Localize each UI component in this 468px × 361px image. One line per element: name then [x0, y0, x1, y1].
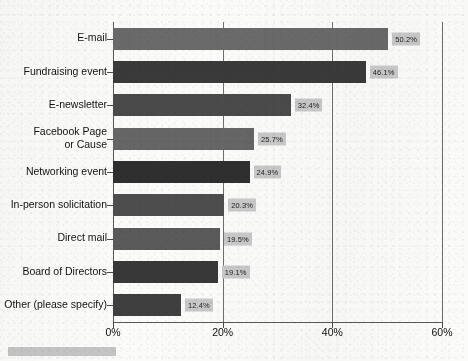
- bar-value-label: 19.1%: [222, 266, 250, 279]
- x-tick: [332, 322, 333, 328]
- category-label-3: E-newsletter: [0, 98, 107, 111]
- x-axis-line: [113, 322, 442, 323]
- y-tick: [107, 305, 113, 306]
- bar-value-label: 24.9%: [254, 166, 282, 179]
- bar-row: 19.5%: [113, 228, 442, 250]
- y-tick: [107, 72, 113, 73]
- category-label-7: Direct mail: [0, 231, 107, 244]
- x-tick: [442, 322, 443, 328]
- category-label-2: Fundraising event: [0, 65, 107, 78]
- y-tick: [107, 105, 113, 106]
- footer-strip: [8, 347, 116, 356]
- bar-row: 25.7%: [113, 128, 442, 150]
- gridline-60: [442, 22, 443, 322]
- bar-row: 20.3%: [113, 194, 442, 216]
- bar-value-label: 32.4%: [295, 99, 323, 112]
- category-label-6: In-person solicitation: [0, 198, 107, 211]
- bar-value-label: 20.3%: [228, 199, 256, 212]
- bar-row: 19.1%: [113, 261, 442, 283]
- category-label-1: E-mail: [0, 31, 107, 44]
- category-label-8: Board of Directors: [0, 265, 107, 278]
- horizontal-bar-chart: 50.2%46.1%32.4%25.7%24.9%20.3%19.5%19.1%…: [0, 0, 468, 361]
- bar-4: [113, 128, 254, 150]
- bar-row: 24.9%: [113, 161, 442, 183]
- bar-row: 12.4%: [113, 294, 442, 316]
- y-tick: [107, 172, 113, 173]
- bar-row: 50.2%: [113, 28, 442, 50]
- bar-value-label: 25.7%: [258, 132, 286, 145]
- bar-value-label: 19.5%: [224, 232, 252, 245]
- y-tick: [107, 272, 113, 273]
- bar-row: 32.4%: [113, 94, 442, 116]
- bar-3: [113, 94, 291, 116]
- bar-value-label: 46.1%: [370, 66, 398, 79]
- bar-2: [113, 61, 366, 83]
- bar-5: [113, 161, 250, 183]
- bar-6: [113, 194, 224, 216]
- y-tick: [107, 205, 113, 206]
- bar-value-label: 12.4%: [185, 299, 213, 312]
- y-tick: [107, 239, 113, 240]
- bar-8: [113, 261, 218, 283]
- x-tick: [223, 322, 224, 328]
- y-tick: [107, 139, 113, 140]
- y-tick: [107, 39, 113, 40]
- bar-value-label: 50.2%: [392, 32, 420, 45]
- bar-row: 46.1%: [113, 61, 442, 83]
- bar-7: [113, 228, 220, 250]
- category-label-4: Facebook Page or Cause: [0, 125, 107, 150]
- category-label-5: Networking event: [0, 165, 107, 178]
- bar-1: [113, 28, 388, 50]
- category-label-9: Other (please specify): [0, 298, 107, 311]
- plot-area: 50.2%46.1%32.4%25.7%24.9%20.3%19.5%19.1%…: [113, 22, 442, 322]
- bar-9: [113, 294, 181, 316]
- x-tick: [113, 322, 114, 328]
